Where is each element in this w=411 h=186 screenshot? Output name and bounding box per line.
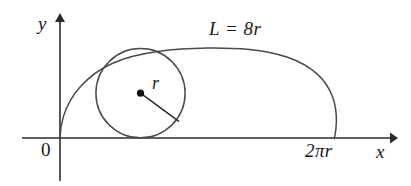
origin-label: 0: [41, 140, 51, 159]
radius-segment: [141, 93, 179, 121]
radius-label: r: [152, 74, 159, 92]
cycloid-arch-curve: [60, 48, 336, 139]
cycloid-figure: y x 0 2πr L = 8r r: [0, 0, 411, 186]
y-axis-label: y: [38, 14, 46, 33]
y-axis-arrow-icon: [55, 13, 65, 22]
figure-canvas: [0, 0, 411, 186]
x-axis-label: x: [376, 142, 384, 161]
period-label: 2πr: [305, 141, 333, 160]
arc-length-label: L = 8r: [209, 19, 261, 38]
x-axis-arrow-icon: [390, 133, 398, 144]
circle-center-dot: [137, 90, 144, 97]
